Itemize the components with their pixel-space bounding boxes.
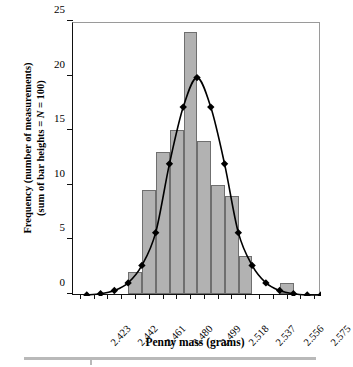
- y-tick-label-25: 25: [54, 3, 65, 15]
- plot-area: 0510152025 2.4232.4422.4612.4802.4992.51…: [72, 22, 320, 295]
- x-tick-minor: [314, 294, 315, 299]
- x-tick-minor: [287, 294, 288, 299]
- data-point-marker: [111, 287, 118, 294]
- y-axis-title-line1: Frequency (number of measurements): [21, 18, 34, 278]
- y-tick-label-15: 15: [54, 112, 65, 124]
- x-tick-minor: [94, 294, 95, 299]
- x-tick-minor: [204, 294, 205, 299]
- y-axis-title-variable-n: N: [35, 111, 46, 119]
- y-tick-label-10: 10: [54, 167, 65, 179]
- data-point-marker: [276, 287, 283, 294]
- x-tick-minor: [121, 294, 122, 299]
- y-tick-label-5: 5: [60, 221, 66, 233]
- fit-curve-svg: [73, 23, 321, 296]
- x-tick-minor: [231, 294, 232, 299]
- y-tick-label-0: 0: [60, 276, 66, 288]
- x-tick-minor: [149, 294, 150, 299]
- caption-divider-rule: [24, 357, 316, 360]
- fit-curve-line: [87, 78, 321, 295]
- y-tick-25: [67, 20, 73, 21]
- x-tick-minor: [107, 294, 108, 299]
- data-point-marker: [290, 290, 297, 296]
- caption-divider-tick: [90, 360, 92, 365]
- x-tick-minor: [176, 294, 177, 299]
- data-point-marker: [180, 103, 187, 110]
- y-axis-title-line2-post: = 100): [35, 80, 46, 110]
- data-point-marker: [166, 160, 173, 167]
- x-tick-label-2.575: 2.575: [329, 323, 353, 348]
- x-tick-minor: [300, 294, 301, 299]
- x-tick-minor: [163, 294, 164, 299]
- x-tick-minor: [259, 294, 260, 299]
- y-axis-title: Frequency (number of measurements) (sum …: [21, 18, 47, 278]
- y-tick-label-20: 20: [54, 58, 65, 70]
- data-point-marker: [138, 262, 145, 269]
- x-tick-minor: [80, 294, 81, 299]
- data-point-marker: [248, 262, 255, 269]
- x-tick-minor: [190, 294, 191, 299]
- data-point-marker: [207, 103, 214, 110]
- y-axis-title-line2: (sum of bar heights = N = 100): [34, 18, 47, 278]
- data-point-marker: [317, 291, 321, 296]
- x-tick-minor: [135, 294, 136, 299]
- data-point-marker: [304, 291, 311, 296]
- x-tick-minor: [273, 294, 274, 299]
- data-point-marker: [83, 291, 90, 296]
- data-point-marker: [97, 290, 104, 296]
- data-point-marker: [152, 229, 159, 236]
- x-axis-title: Penny mass (grams): [60, 336, 330, 348]
- x-tick-minor: [218, 294, 219, 299]
- x-tick-minor: [245, 294, 246, 299]
- data-point-marker: [221, 160, 228, 167]
- y-axis-title-line2-pre: (sum of bar heights =: [35, 118, 46, 216]
- data-point-marker: [235, 229, 242, 236]
- gaussian-fit-curve: [73, 23, 319, 294]
